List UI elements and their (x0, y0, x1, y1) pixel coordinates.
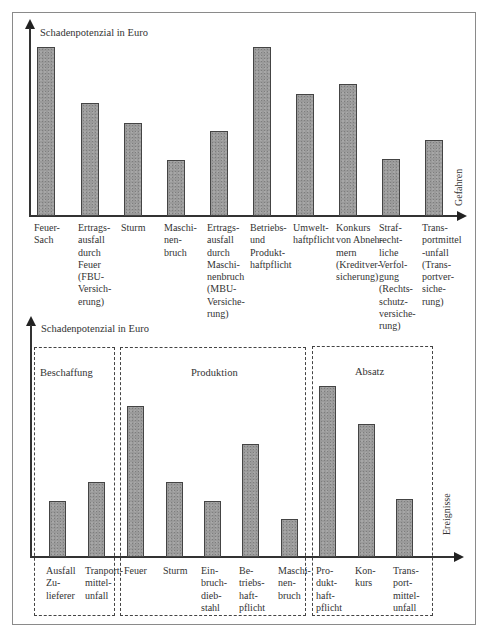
top-category-label: Maschi- nen- bruch (164, 222, 197, 259)
bottom-bar (396, 499, 413, 557)
bottom-bar (319, 386, 336, 557)
bottom-category-label: Ausfall Zu- lieferer (46, 565, 75, 602)
bottom-category-label: Tranport- mittel- unfall (85, 565, 123, 602)
top-bar (37, 47, 55, 216)
bottom-category-label: Pro- dukt- haft- pflicht (316, 565, 342, 614)
top-bar (425, 140, 443, 216)
bottom-category-label: Kon- kurs (355, 565, 376, 590)
top-bar (124, 123, 142, 216)
top-bar (253, 47, 271, 216)
bottom-bar (281, 519, 298, 557)
top-category-label: Trans- portmittel -unfall (Trans- portve… (422, 222, 461, 308)
bottom-category-label: Be- triebs- haft- pflicht (239, 565, 265, 614)
bottom-bar (204, 501, 221, 557)
top-category-label: Feuer- Sach (34, 222, 60, 247)
top-category-label: Ertrags- ausfall durch Feuer (FBU- Versi… (78, 222, 111, 308)
top-bar (81, 103, 99, 216)
top-category-label: Konkurs von Abneh- mern (Kreditver- sich… (336, 222, 383, 283)
bottom-x-axis-arrow-icon (454, 552, 464, 562)
bottom-bar (127, 406, 144, 557)
group-label-absatz: Absatz (355, 366, 384, 377)
group-label-beschaffung: Beschaffung (40, 367, 93, 378)
bottom-category-label: Sturm (163, 565, 187, 577)
bottom-category-label: Feuer (124, 565, 147, 577)
bottom-bar (242, 444, 259, 557)
bottom-bar (49, 501, 66, 557)
top-bar (339, 84, 357, 216)
bottom-bar (358, 424, 375, 557)
top-category-label: Betriebs- und Produkt- haftpflicht (250, 222, 292, 271)
top-bar (167, 160, 185, 216)
bottom-category-label: Trans- port- mittel- unfall (393, 565, 420, 614)
group-label-produktion: Produktion (191, 367, 238, 378)
bottom-x-axis-label: Ereignisse (441, 493, 452, 535)
top-y-axis-label: Schadenpotenzial in Euro (40, 27, 148, 38)
bottom-category-label: Maschi- nen- bruch (278, 565, 311, 602)
bottom-bar (88, 482, 105, 557)
top-y-axis (29, 28, 31, 217)
bottom-bar (166, 482, 183, 557)
top-category-label: Umwelt- haftpflicht (293, 222, 335, 247)
bottom-category-label: Ein- bruch- dieb- stahl (201, 565, 227, 614)
top-category-label: Sturm (121, 222, 145, 234)
top-x-axis-label: Gefahren (453, 169, 464, 206)
top-x-axis-arrow-icon (457, 211, 467, 221)
top-category-label: Ertrags- ausfall durch Maschi- nenbruch … (207, 222, 245, 320)
bottom-y-axis-label: Schadenpotenzial in Euro (41, 323, 149, 334)
top-bar (210, 131, 228, 216)
bottom-y-axis (30, 325, 32, 558)
top-bar (382, 159, 400, 216)
top-category-label: Straf- recht- liche Verfol- gung (Rechts… (379, 222, 416, 333)
top-bar (296, 94, 314, 216)
